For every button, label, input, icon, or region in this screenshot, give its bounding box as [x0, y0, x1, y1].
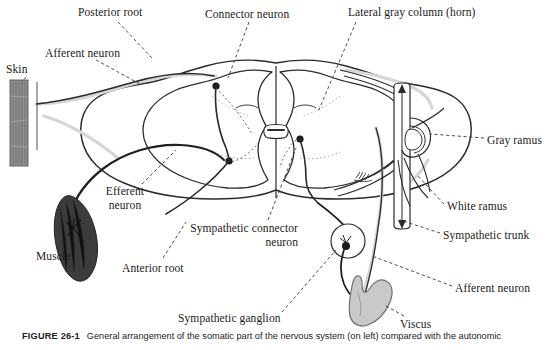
figure-number: FIGURE 26-1	[22, 331, 80, 341]
label-posterior-root: Posterior root	[78, 6, 142, 20]
label-skin: Skin	[6, 63, 28, 77]
viscus-organ	[349, 276, 392, 326]
sympathetic-ganglion-node	[331, 224, 365, 258]
label-white-ramus: White ramus	[447, 200, 507, 214]
figure-caption-text: General arrangement of the somatic part …	[87, 331, 501, 341]
label-muscle: Muscle	[36, 250, 70, 264]
label-gray-ramus: Gray ramus	[487, 134, 542, 148]
label-sympathetic-connector-line1: Sympathetic connector	[190, 222, 298, 234]
figure-caption: FIGURE 26-1General arrangement of the so…	[22, 331, 552, 343]
leader-viscus	[386, 306, 404, 316]
label-sympathetic-connector-neuron: Sympathetic connector neuron	[168, 222, 298, 249]
label-viscus: Viscus	[400, 318, 431, 332]
muscle-body	[54, 196, 97, 282]
label-efferent-neuron-line2: neuron	[109, 199, 142, 211]
label-anterior-root: Anterior root	[122, 262, 184, 276]
label-lateral-gray-column: Lateral gray column (horn)	[348, 6, 475, 20]
label-sympathetic-trunk: Sympathetic trunk	[443, 229, 529, 243]
label-efferent-neuron: Efferent neuron	[94, 185, 156, 212]
figure-panel: Posterior root Connector neuron Lateral …	[0, 0, 557, 350]
label-connector-neuron: Connector neuron	[205, 8, 289, 22]
label-afferent-neuron-right: Afferent neuron	[455, 282, 530, 296]
label-sympathetic-ganglion: Sympathetic ganglion	[178, 312, 281, 326]
label-afferent-neuron-left: Afferent neuron	[45, 47, 120, 61]
leader-sympathetic-ganglion	[282, 250, 336, 312]
label-efferent-neuron-line1: Efferent	[106, 185, 144, 197]
skin-patch	[10, 80, 37, 166]
label-sympathetic-connector-line2: neuron	[265, 236, 298, 248]
leader-posterior-root	[118, 22, 152, 58]
leader-afferent-neuron-left	[96, 60, 140, 84]
ganglion-synapse-dot	[342, 242, 350, 250]
